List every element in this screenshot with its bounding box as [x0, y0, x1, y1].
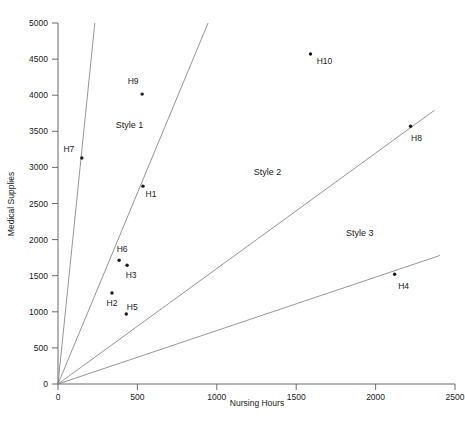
- data-point-H8: H8: [409, 125, 422, 144]
- data-point-H5: H5: [125, 302, 138, 316]
- y-tick-label: 4500: [29, 54, 48, 64]
- y-tick-label: 2500: [29, 199, 48, 209]
- chart-figure: 0500100015002000250030003500400045005000…: [0, 0, 465, 430]
- x-tick-label: 1000: [207, 392, 226, 402]
- data-point-H1: H1: [141, 184, 156, 199]
- point-marker-H3: [125, 264, 128, 267]
- y-axis-ticks: 0500100015002000250030003500400045005000: [29, 18, 58, 389]
- point-label-H3: H3: [126, 270, 137, 280]
- point-marker-H9: [140, 92, 143, 95]
- data-point-H7: H7: [63, 144, 83, 160]
- region-label-style-1: Style 1: [116, 120, 144, 130]
- y-tick-label: 3000: [29, 162, 48, 172]
- point-label-H5: H5: [127, 302, 138, 312]
- style-boundary-rays: [58, 23, 440, 384]
- y-tick-label: 3500: [29, 126, 48, 136]
- x-axis-title: Nursing Hours: [230, 398, 284, 408]
- point-marker-H2: [110, 291, 113, 294]
- point-label-H1: H1: [146, 189, 157, 199]
- boundary-ray-style3-lower: [58, 255, 440, 384]
- point-marker-H5: [125, 312, 128, 315]
- data-point-H2: H2: [107, 291, 118, 308]
- point-label-H4: H4: [398, 281, 409, 291]
- axes-group: [58, 23, 455, 384]
- data-point-H4: H4: [393, 273, 409, 292]
- point-label-H8: H8: [411, 133, 422, 143]
- point-label-H7: H7: [63, 144, 74, 154]
- point-label-H10: H10: [317, 56, 333, 66]
- point-marker-H6: [117, 258, 120, 261]
- x-tick-label: 2500: [446, 392, 465, 402]
- data-points-group: H7H9H1H6H3H2H5H10H8H4: [63, 52, 422, 315]
- y-tick-label: 2000: [29, 235, 48, 245]
- point-marker-H1: [141, 184, 144, 187]
- data-point-H3: H3: [125, 264, 136, 281]
- x-tick-label: 0: [56, 392, 61, 402]
- y-axis-title: Medical Supplies: [6, 172, 16, 236]
- x-tick-label: 1500: [287, 392, 306, 402]
- data-point-H10: H10: [309, 52, 333, 66]
- boundary-ray-style1-upper: [58, 23, 95, 384]
- point-marker-H10: [309, 52, 312, 55]
- region-label-style-3: Style 3: [346, 228, 374, 238]
- point-marker-H8: [409, 125, 412, 128]
- y-tick-label: 0: [43, 379, 48, 389]
- y-tick-label: 1000: [29, 307, 48, 317]
- point-label-H2: H2: [107, 298, 118, 308]
- style-region-labels: Style 1Style 2Style 3: [116, 120, 374, 238]
- point-label-H6: H6: [117, 244, 128, 254]
- region-label-style-2: Style 2: [254, 167, 282, 177]
- scatter-plot-canvas: 0500100015002000250030003500400045005000…: [0, 0, 465, 430]
- y-tick-label: 1500: [29, 271, 48, 281]
- point-marker-H4: [393, 273, 396, 276]
- y-tick-label: 4000: [29, 90, 48, 100]
- point-marker-H7: [80, 156, 83, 159]
- data-point-H9: H9: [128, 76, 144, 96]
- y-tick-label: 5000: [29, 18, 48, 28]
- point-label-H9: H9: [128, 76, 139, 86]
- x-tick-label: 500: [130, 392, 144, 402]
- x-tick-label: 2000: [366, 392, 385, 402]
- data-point-H6: H6: [117, 244, 128, 262]
- y-tick-label: 500: [34, 343, 48, 353]
